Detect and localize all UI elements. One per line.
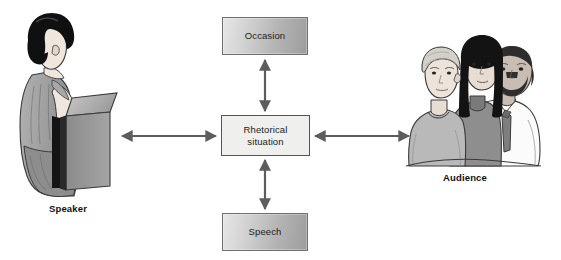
node-center-label-line1: Rhetorical: [244, 124, 288, 135]
node-speech-label: Speech: [249, 226, 282, 238]
node-speech[interactable]: Speech: [222, 213, 308, 251]
node-center-label-line2: situation: [247, 136, 283, 147]
node-occasion-label: Occasion: [245, 30, 285, 42]
speaker-caption: Speaker: [49, 203, 87, 214]
rhetorical-situation-diagram: Occasion Rhetorical situation Speech Spe…: [0, 0, 561, 260]
audience-caption: Audience: [443, 172, 487, 183]
node-occasion[interactable]: Occasion: [222, 17, 308, 55]
node-rhetorical-situation-label: Rhetorical situation: [244, 124, 288, 148]
node-rhetorical-situation[interactable]: Rhetorical situation: [221, 115, 310, 156]
